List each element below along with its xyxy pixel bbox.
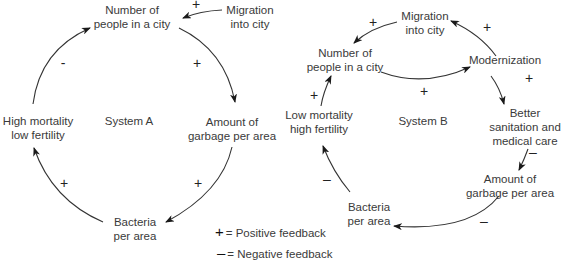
sign-a-migration-to-people: + bbox=[192, 0, 200, 11]
arrow-b-modernization-to-sanitation bbox=[491, 76, 504, 104]
legend-negative: –= Negative feedback bbox=[217, 244, 333, 261]
label-line: Number of bbox=[105, 4, 159, 16]
arrow-a-migration-to-people bbox=[183, 10, 222, 18]
minus-symbol: – bbox=[217, 244, 225, 261]
sign-b-people-to-modernization: + bbox=[420, 84, 428, 98]
node-b-people: Number of people in a city bbox=[307, 46, 384, 74]
node-b-sanitation: Better sanitation and medical care bbox=[489, 106, 561, 148]
sign-a-garbage-to-bacteria: + bbox=[194, 176, 202, 190]
legend-negative-label: = Negative feedback bbox=[227, 248, 332, 260]
label-line: Number of bbox=[318, 47, 372, 59]
label-line: Amount of bbox=[484, 173, 536, 185]
system-b-title: System B bbox=[398, 114, 447, 128]
node-a-mortality: High mortality low fertility bbox=[3, 114, 73, 142]
label-line: per area bbox=[348, 215, 391, 227]
label-line: sanitation and bbox=[489, 121, 561, 133]
label-line: Better bbox=[510, 107, 541, 119]
sign-b-bacteria-to-mortality: – bbox=[323, 172, 331, 186]
label-line: Migration bbox=[401, 10, 448, 22]
plus-symbol: + bbox=[215, 223, 224, 240]
label-line: medical care bbox=[492, 135, 557, 147]
sign-a-mortality-to-people: - bbox=[61, 56, 66, 70]
legend-positive: += Positive feedback bbox=[215, 223, 326, 240]
label-line: garbage per area bbox=[188, 130, 276, 142]
arrow-b-people-to-modernization bbox=[381, 67, 470, 79]
arrow-a-people-to-garbage bbox=[179, 28, 235, 102]
node-a-garbage: Amount of garbage per area bbox=[188, 115, 276, 143]
system-a-title: System A bbox=[105, 114, 154, 128]
label-line: Amount of bbox=[206, 116, 258, 128]
arrow-b-sanitation-to-garbage bbox=[519, 149, 528, 170]
label-line: people in a city bbox=[307, 61, 384, 73]
label-line: Bacteria bbox=[348, 201, 390, 213]
label-line: per area bbox=[114, 230, 157, 242]
arrow-b-mortality-to-people bbox=[321, 76, 331, 106]
node-b-migration: Migration into city bbox=[401, 9, 448, 37]
legend-positive-label: = Positive feedback bbox=[226, 227, 326, 239]
sign-b-modernization-to-sanitation: + bbox=[525, 71, 533, 85]
label-line: high fertility bbox=[290, 123, 348, 135]
sign-b-modernization-to-migration: + bbox=[483, 20, 491, 34]
node-a-migration: Migration into city bbox=[226, 3, 273, 31]
sign-b-sanitation-to-garbage: – bbox=[529, 145, 537, 159]
sign-a-people-to-garbage: + bbox=[193, 56, 201, 70]
label-line: into city bbox=[406, 24, 445, 36]
node-a-people: Number of people in a city bbox=[94, 3, 171, 31]
label-line: Modernization bbox=[469, 54, 541, 66]
sign-b-migration-to-people: + bbox=[369, 15, 377, 29]
node-b-bacteria: Bacteria per area bbox=[348, 200, 391, 228]
label-line: into city bbox=[231, 18, 270, 30]
sign-b-mortality-to-people: + bbox=[310, 88, 318, 102]
label-line: Low mortality bbox=[285, 109, 353, 121]
label-line: Bacteria bbox=[114, 216, 156, 228]
node-b-mortality: Low mortality high fertility bbox=[285, 108, 353, 136]
sign-b-garbage-to-bacteria: – bbox=[480, 214, 488, 228]
arrow-a-bacteria-to-mortality bbox=[34, 148, 103, 222]
label-line: High mortality bbox=[3, 115, 73, 127]
node-b-garbage: Amount of garbage per area bbox=[466, 172, 554, 200]
label-line: people in a city bbox=[94, 18, 171, 30]
label-line: garbage per area bbox=[466, 187, 554, 199]
sign-a-bacteria-to-mortality: + bbox=[60, 176, 68, 190]
node-b-modernization: Modernization bbox=[469, 53, 541, 67]
node-a-bacteria: Bacteria per area bbox=[114, 215, 157, 243]
label-line: low fertility bbox=[11, 129, 65, 141]
label-line: Migration bbox=[226, 4, 273, 16]
